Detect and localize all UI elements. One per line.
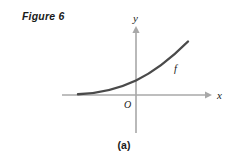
x-axis-arrowhead [205,91,212,98]
x-axis-label: x [216,89,222,101]
origin-label: O [124,99,131,110]
y-axis-arrowhead [132,26,139,33]
panel-caption: (a) [0,139,248,151]
figure-panel: Figure 6 y x O f (a) [0,0,248,166]
curve-label-f: f [174,63,179,74]
y-axis-label: y [132,12,138,24]
function-curve [78,42,188,95]
